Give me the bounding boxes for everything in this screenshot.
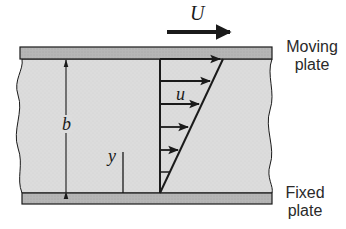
moving-plate [20,47,272,59]
fixed-plate [22,193,272,204]
moving-plate-label: Moving plate [281,38,343,74]
velocity-u-label: u [176,84,185,105]
moving-plate-label-line2: plate [281,56,343,74]
fixed-plate-label-line2: plate [283,202,327,220]
gap-b-label: b [61,115,72,133]
fluid-region [16,59,272,193]
velocity-U-label: U [190,2,204,25]
fixed-plate-label-line1: Fixed [283,184,327,202]
fixed-plate-label: Fixed plate [283,184,327,220]
moving-plate-label-line1: Moving [281,38,343,56]
y-coordinate-label: y [108,146,116,167]
